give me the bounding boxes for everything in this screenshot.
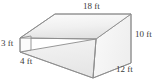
dimension-label-left-height: 3 ft: [1, 38, 13, 48]
dimension-label-front-base: 4 ft: [20, 56, 32, 66]
dimension-label-top-length: 18 ft: [83, 1, 100, 11]
solid-drawing: [0, 0, 166, 82]
dimension-label-depth: 12 ft: [116, 64, 133, 74]
geometry-figure: 18 ft 10 ft 3 ft 4 ft 12 ft: [0, 0, 166, 82]
dimension-label-right-height: 10 ft: [135, 29, 152, 39]
